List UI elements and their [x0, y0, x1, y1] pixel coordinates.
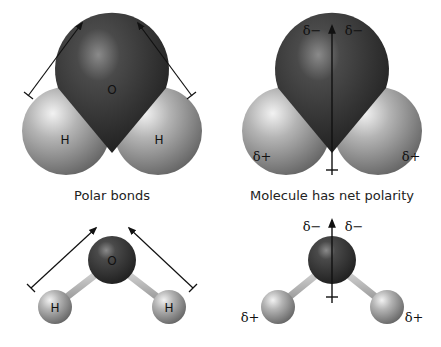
partial-negative-left: δ− [303, 219, 322, 234]
partial-positive-left: δ+ [241, 310, 260, 325]
space-filling-model-net-polarity: δ− δ− δ+ δ+ [242, 13, 422, 175]
caption-net-polarity: Molecule has net polarity [250, 188, 414, 203]
water-polarity-diagram: O H H δ− δ− δ+ δ+ O H H [0, 0, 441, 347]
hydrogen-label-right: H [154, 133, 163, 147]
partial-positive-right: δ+ [402, 149, 421, 164]
ball-and-stick-model-net-polarity: δ− δ− δ+ δ+ [241, 219, 424, 325]
partial-negative-right: δ− [345, 219, 364, 234]
dipole-cross-left [24, 92, 33, 99]
partial-positive-right: δ+ [405, 310, 424, 325]
hydrogen-label-right: H [164, 301, 173, 315]
hydrogen-label-left: H [50, 301, 59, 315]
space-filling-model-polar-bonds: O H H [22, 13, 202, 175]
oxygen-label: O [107, 254, 116, 268]
hydrogen-label-left: H [60, 133, 69, 147]
hydrogen-ball-left [261, 290, 295, 324]
hydrogen-ball-right [370, 290, 404, 324]
partial-negative-right: δ− [345, 23, 364, 38]
oxygen-label: O [107, 83, 116, 97]
dipole-cross-right [187, 92, 196, 99]
partial-positive-left: δ+ [253, 149, 272, 164]
ball-and-stick-model-polar-bonds: O H H [27, 228, 197, 324]
caption-polar-bonds: Polar bonds [74, 188, 150, 203]
partial-negative-left: δ− [303, 23, 322, 38]
